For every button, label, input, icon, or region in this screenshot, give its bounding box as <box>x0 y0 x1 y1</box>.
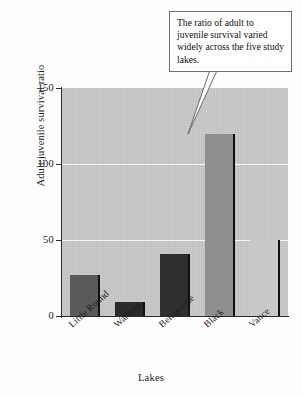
bar-black <box>205 134 235 316</box>
y-axis-line <box>61 87 62 318</box>
x-axis-title: Lakes <box>0 372 302 383</box>
y-tick <box>56 88 62 89</box>
bar-edge <box>278 240 280 316</box>
annotation-callout-text: The ratio of adult to juvenile survival … <box>177 17 284 65</box>
y-axis-title: Adult:juvenile survival ratio <box>35 41 46 211</box>
y-tick-label: 0 <box>30 311 54 322</box>
bar-chart-figure: 150100500 Adult:juvenile survival ratio … <box>0 0 302 396</box>
gridline <box>62 164 288 165</box>
bar-edge <box>233 134 235 316</box>
y-tick <box>56 240 62 241</box>
bar-vance <box>250 240 280 316</box>
plot-area <box>62 88 288 316</box>
bar-edge <box>143 302 145 316</box>
bar-face <box>250 240 280 316</box>
bar-face <box>205 134 235 316</box>
y-tick <box>56 164 62 165</box>
y-tick <box>56 316 62 317</box>
y-tick-label: 50 <box>30 235 54 246</box>
annotation-callout: The ratio of adult to juvenile survival … <box>169 11 292 72</box>
